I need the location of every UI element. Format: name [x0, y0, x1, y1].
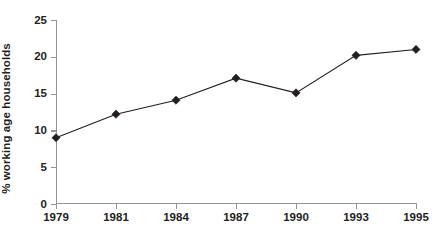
- x-tick-label: 1981: [103, 212, 129, 224]
- x-tick-label: 1990: [283, 212, 309, 224]
- series-markers: [52, 45, 420, 142]
- x-tick-label: 1993: [343, 212, 369, 224]
- y-tick-label: 25: [34, 15, 47, 27]
- x-tick-label: 1987: [223, 212, 249, 224]
- data-point-marker: [292, 89, 300, 97]
- series-line: [56, 49, 416, 137]
- x-tick-label: 1984: [163, 212, 189, 224]
- x-tick-label: 1979: [43, 212, 69, 224]
- y-tick-label: 20: [34, 52, 47, 64]
- series-layer: [56, 20, 416, 204]
- data-point-marker: [112, 110, 120, 118]
- data-point-marker: [352, 51, 360, 59]
- y-axis-title: % working age households: [0, 0, 28, 237]
- x-tick-mark: [416, 203, 417, 209]
- data-point-marker: [232, 74, 240, 82]
- y-tick-label: 0: [41, 199, 47, 211]
- plot-area: 0510152025 1979198119841987199019931995: [56, 20, 416, 204]
- data-point-marker: [412, 45, 420, 53]
- y-tick-label: 10: [34, 125, 47, 137]
- data-point-marker: [52, 134, 60, 142]
- line-chart: % working age households 0510152025 1979…: [0, 0, 440, 237]
- y-tick-label: 15: [34, 88, 47, 100]
- x-tick-label: 1995: [403, 212, 429, 224]
- y-tick-label: 5: [41, 162, 47, 174]
- data-point-marker: [172, 96, 180, 104]
